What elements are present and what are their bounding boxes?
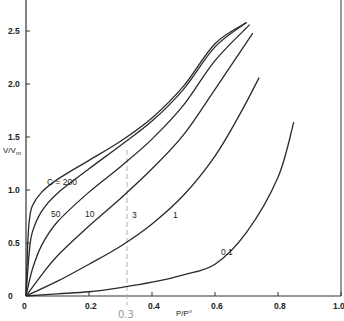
curves xyxy=(26,23,294,296)
x-tick-label: 1.0 xyxy=(333,301,344,311)
x-tick-label: 0 xyxy=(22,301,27,311)
curve-label-c200: C = 200 xyxy=(47,177,77,187)
x-tick-label: 0.2 xyxy=(85,301,97,311)
y-tick-label: 2.5 xyxy=(8,26,20,36)
y-tick-label: 0 xyxy=(8,291,13,301)
curve-label-10: 10 xyxy=(85,209,95,219)
curve-label-3: 3 xyxy=(132,210,137,220)
handwritten-note: 0.3 xyxy=(118,309,134,320)
y-tick-label: 1.5 xyxy=(8,132,20,142)
curve-label-50: 50 xyxy=(51,209,61,219)
y-tick-label: 1.0 xyxy=(8,185,20,195)
curve-label-1: 1 xyxy=(173,210,178,220)
x-tick-label: 0.4 xyxy=(148,301,160,311)
isotherm-curve-c01 xyxy=(26,122,294,296)
x-tick-label: 0.8 xyxy=(274,301,286,311)
x-tick-label: 0.6 xyxy=(211,301,223,311)
y-tick-label: 0.5 xyxy=(8,238,20,248)
isotherm-curve-c3 xyxy=(26,33,253,296)
y-axis-title: V/Vm xyxy=(3,146,21,156)
y-tick-label: 2.0 xyxy=(8,79,20,89)
x-axis-title: P/P° xyxy=(176,309,192,318)
curve-label-0-1: 0.1 xyxy=(221,247,233,257)
bet-isotherm-chart: 00.20.40.60.81.0 00.51.01.52.02.5 0.3 C … xyxy=(0,0,344,321)
isotherm-curve-c10 xyxy=(26,25,250,296)
